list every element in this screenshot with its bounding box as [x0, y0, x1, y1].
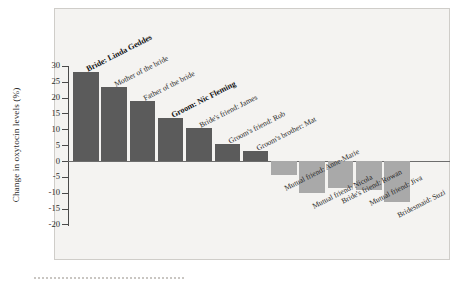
bottom-divider	[34, 277, 184, 281]
bar	[101, 87, 127, 161]
bar-series	[0, 0, 457, 287]
oxytocin-bar-chart: Change in oxytocin levels (%) 3025201510…	[0, 0, 457, 287]
bar	[243, 151, 269, 161]
bar	[271, 161, 297, 175]
bar	[215, 144, 241, 161]
bar	[158, 118, 184, 161]
bar	[186, 128, 212, 161]
bar	[130, 101, 156, 161]
bar	[73, 72, 99, 161]
